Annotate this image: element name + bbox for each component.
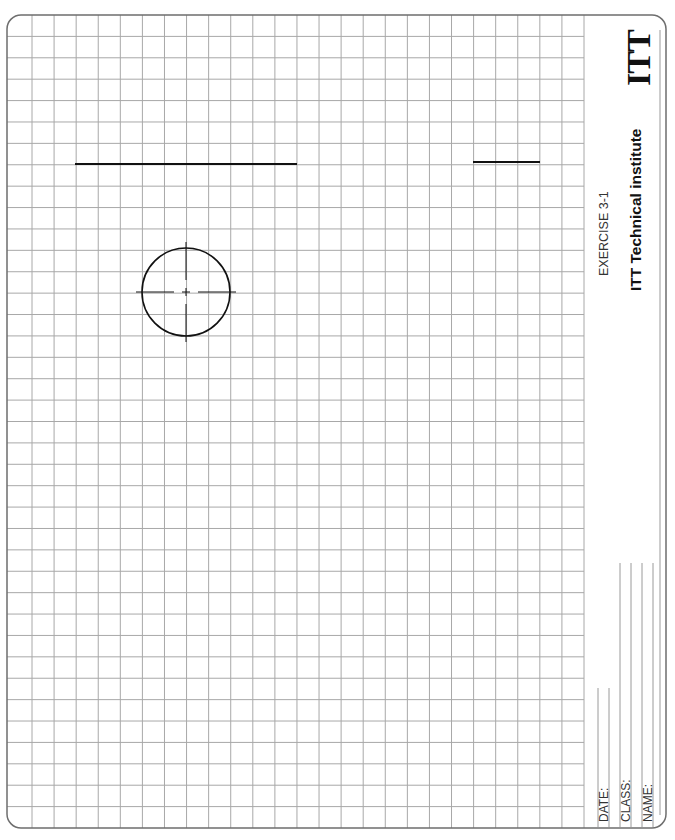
name-label: NAME: (641, 784, 655, 822)
graph-paper-worksheet (0, 0, 675, 840)
grid-lines (7, 15, 584, 828)
circle-centerlines (136, 242, 236, 342)
exercise-label: EXERCISE 3-1 (597, 191, 611, 276)
class-label: CLASS: (619, 779, 633, 822)
date-label: DATE: (597, 788, 611, 822)
itt-logo: ITT (620, 30, 658, 86)
institute-name: ITT Technical institute (627, 129, 645, 291)
